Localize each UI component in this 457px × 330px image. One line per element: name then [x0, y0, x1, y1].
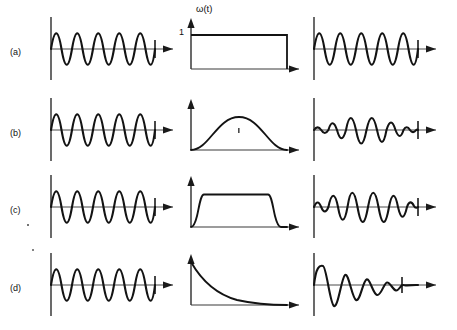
row-d-output-panel	[308, 250, 453, 320]
row-c-input-panel	[45, 172, 190, 242]
input-sine-wave-c	[45, 172, 190, 242]
row-b-window-panel	[175, 95, 310, 165]
tukey-window-c	[175, 172, 310, 242]
row-d-input-panel	[45, 250, 190, 320]
row-b-output-panel	[308, 95, 453, 165]
row-a-window-panel: ω(t) 1	[175, 14, 310, 84]
row-d-window-panel	[175, 250, 310, 320]
row-label-c: (c)	[10, 205, 21, 215]
row-a-output-panel	[308, 14, 453, 84]
row-label-b: (b)	[10, 128, 21, 138]
window-axis-label: ω(t)	[196, 3, 212, 14]
row-c-output-panel	[308, 172, 453, 242]
input-sine-wave-d	[45, 250, 190, 320]
row-label-d: (d)	[10, 283, 21, 293]
windowed-output-d	[308, 250, 453, 320]
input-sine-wave-a	[45, 14, 190, 84]
row-c-window-panel	[175, 172, 310, 242]
scan-speck	[27, 224, 29, 226]
hann-window-b	[175, 95, 310, 165]
windowed-output-c	[308, 172, 453, 242]
windowed-output-b	[308, 95, 453, 165]
rectangular-window-a	[175, 14, 310, 84]
row-label-a: (a)	[10, 47, 21, 57]
exponential-window-d	[175, 250, 310, 320]
row-a-input-panel	[45, 14, 190, 84]
windowing-figure: (a) ω(t) 1	[0, 0, 457, 330]
row-b-input-panel	[45, 95, 190, 165]
scan-speck	[32, 249, 34, 251]
windowed-output-a	[308, 14, 453, 84]
window-unit-tick-label: 1	[179, 27, 184, 37]
input-sine-wave-b	[45, 95, 190, 165]
